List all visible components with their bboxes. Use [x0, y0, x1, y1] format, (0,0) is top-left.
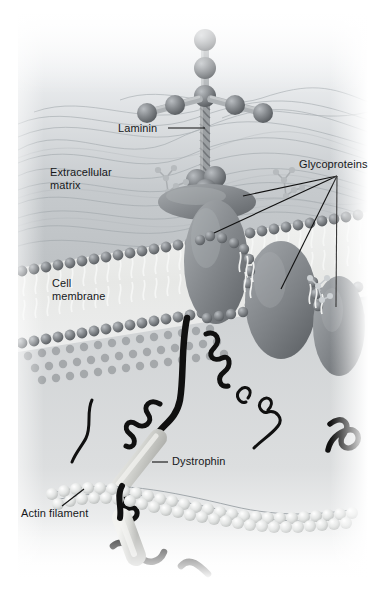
label-dystrophin: Dystrophin — [172, 455, 226, 468]
label-laminin: Laminin — [118, 122, 157, 135]
label-extracellular-matrix: Extracellular matrix — [50, 166, 112, 191]
glycoprotein-middle — [245, 241, 317, 359]
label-cell-membrane: Cell membrane — [52, 277, 105, 302]
glycoprotein-tall-left — [184, 200, 248, 324]
label-actin-filament: Actin filament — [21, 507, 88, 520]
dystrophin-actin-linker — [119, 486, 122, 518]
figure-canvas: Laminin Extracellular matrix Glycoprotei… — [0, 0, 386, 608]
label-glycoproteins: Glycoproteins — [299, 158, 368, 171]
